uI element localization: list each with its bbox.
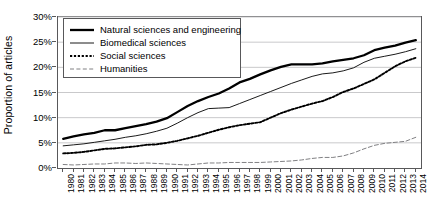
x-axis-tick-label: 2012 [398, 174, 408, 193]
y-axis-tick-mark [52, 66, 56, 67]
x-axis-tick-label: 1992 [190, 174, 200, 193]
x-axis-tick-mark [353, 168, 354, 172]
y-axis-tick-label: 5% [18, 136, 52, 147]
x-axis-tick-label: 2001 [284, 174, 294, 193]
x-axis-tick-mark [156, 168, 157, 172]
x-axis-tick-mark [259, 168, 260, 172]
legend-item: Humanities [69, 62, 235, 75]
x-axis-tick-label: 2007 [346, 174, 356, 193]
x-axis-tick-labels: 1980198119821983198419851986198719881989… [57, 168, 420, 219]
x-axis-tick-label: 2011 [387, 174, 397, 192]
y-axis-tick-label: 20% [18, 61, 52, 72]
x-axis-tick-mark [239, 168, 240, 172]
x-axis-tick-label: 1980 [66, 174, 76, 193]
x-axis-tick-mark [270, 168, 271, 172]
x-axis-tick-label: 2013 [408, 174, 418, 193]
y-axis-tick-label: 25% [18, 36, 52, 47]
y-axis-tick-label: 10% [18, 111, 52, 122]
legend-swatch-icon [69, 63, 95, 75]
legend-item: Natural sciences and engineering [69, 23, 235, 36]
x-axis-tick-label: 1987 [138, 174, 148, 193]
x-axis-tick-label: 1988 [149, 174, 159, 193]
x-axis-tick-mark [249, 168, 250, 172]
x-axis-tick-mark [404, 168, 405, 172]
x-axis-tick-mark [83, 168, 84, 172]
x-axis-tick-mark [342, 168, 343, 172]
x-axis-tick-mark [93, 168, 94, 172]
x-axis-tick-mark [280, 168, 281, 172]
x-axis-tick-mark [114, 168, 115, 172]
legend-item-label: Biomedical sciences [100, 37, 186, 49]
legend-item: Social sciences [69, 49, 235, 62]
x-axis-tick-mark [415, 168, 416, 172]
x-axis-tick-label: 2002 [294, 174, 304, 193]
y-axis-tick-mark [52, 92, 56, 93]
x-axis-tick-label: 1996 [232, 174, 242, 193]
x-axis-tick-label: 1998 [252, 174, 262, 193]
y-axis-title-text: Proportion of articles [2, 36, 14, 135]
x-axis-tick-mark [228, 168, 229, 172]
x-axis-tick-label: 1989 [159, 174, 169, 193]
y-axis-tick-mark [52, 41, 56, 42]
x-axis-tick-mark [321, 168, 322, 172]
x-axis-tick-label: 1999 [263, 174, 273, 193]
x-axis-tick-label: 2000 [273, 174, 283, 193]
x-axis-tick-label: 2014 [418, 174, 428, 193]
x-axis-tick-mark [145, 168, 146, 172]
x-axis-tick-label: 2008 [356, 174, 366, 193]
x-axis-tick-mark [197, 168, 198, 172]
x-axis-tick-label: 1993 [201, 174, 211, 193]
legend-item-label: Natural sciences and engineering [100, 24, 241, 36]
x-axis-tick-mark [384, 168, 385, 172]
x-axis-tick-mark [363, 168, 364, 172]
y-axis-tick-label: 0% [18, 162, 52, 173]
x-axis-tick-mark [311, 168, 312, 172]
y-axis-tick-label: 30% [18, 11, 52, 22]
y-axis-tick-mark [52, 117, 56, 118]
y-axis-title: Proportion of articles [0, 0, 16, 170]
x-axis-tick-mark [207, 168, 208, 172]
x-axis-tick-mark [124, 168, 125, 172]
x-axis-tick-label: 1983 [97, 174, 107, 193]
x-axis-tick-mark [394, 168, 395, 172]
x-axis-tick-label: 1985 [118, 174, 128, 193]
x-axis-tick-label: 2003 [304, 174, 314, 193]
x-axis-tick-mark [62, 168, 63, 172]
y-axis-tick-mark [52, 142, 56, 143]
legend-swatch-icon [69, 37, 95, 49]
legend-item-label: Humanities [100, 63, 148, 75]
x-axis-tick-label: 2004 [315, 174, 325, 193]
legend-swatch-icon [69, 24, 95, 36]
y-axis-tick-label: 15% [18, 86, 52, 97]
x-axis-tick-label: 1994 [211, 174, 221, 193]
legend-item: Biomedical sciences [69, 36, 235, 49]
y-axis-tick-labels: 0%5%10%15%20%25%30% [18, 0, 52, 219]
x-axis-tick-mark [332, 168, 333, 172]
series-line [63, 137, 416, 165]
x-axis-tick-label: 1997 [242, 174, 252, 193]
x-axis-tick-label: 2005 [325, 174, 335, 193]
x-axis-tick-mark [373, 168, 374, 172]
x-axis-tick-label: 2009 [367, 174, 377, 193]
x-axis-tick-mark [104, 168, 105, 172]
x-axis-tick-mark [73, 168, 74, 172]
x-axis-tick-label: 1986 [128, 174, 138, 193]
chart-figure: Proportion of articles 0%5%10%15%20%25%3… [0, 0, 434, 219]
y-axis-tick-mark [52, 16, 56, 17]
x-axis-tick-mark [176, 168, 177, 172]
x-axis-tick-label: 1990 [170, 174, 180, 193]
x-axis-tick-label: 1982 [87, 174, 97, 193]
x-axis-tick-mark [290, 168, 291, 172]
x-axis-tick-mark [301, 168, 302, 172]
x-axis-tick-label: 2010 [377, 174, 387, 193]
x-axis-tick-mark [135, 168, 136, 172]
legend-swatch-icon [69, 50, 95, 62]
x-axis-tick-label: 1984 [107, 174, 117, 193]
y-axis-tick-mark [52, 167, 56, 168]
x-axis-tick-label: 1981 [76, 174, 86, 193]
x-axis-tick-label: 1991 [180, 174, 190, 193]
x-axis-tick-label: 1995 [221, 174, 231, 193]
x-axis-tick-mark [218, 168, 219, 172]
x-axis-tick-mark [166, 168, 167, 172]
legend-item-label: Social sciences [100, 50, 165, 62]
